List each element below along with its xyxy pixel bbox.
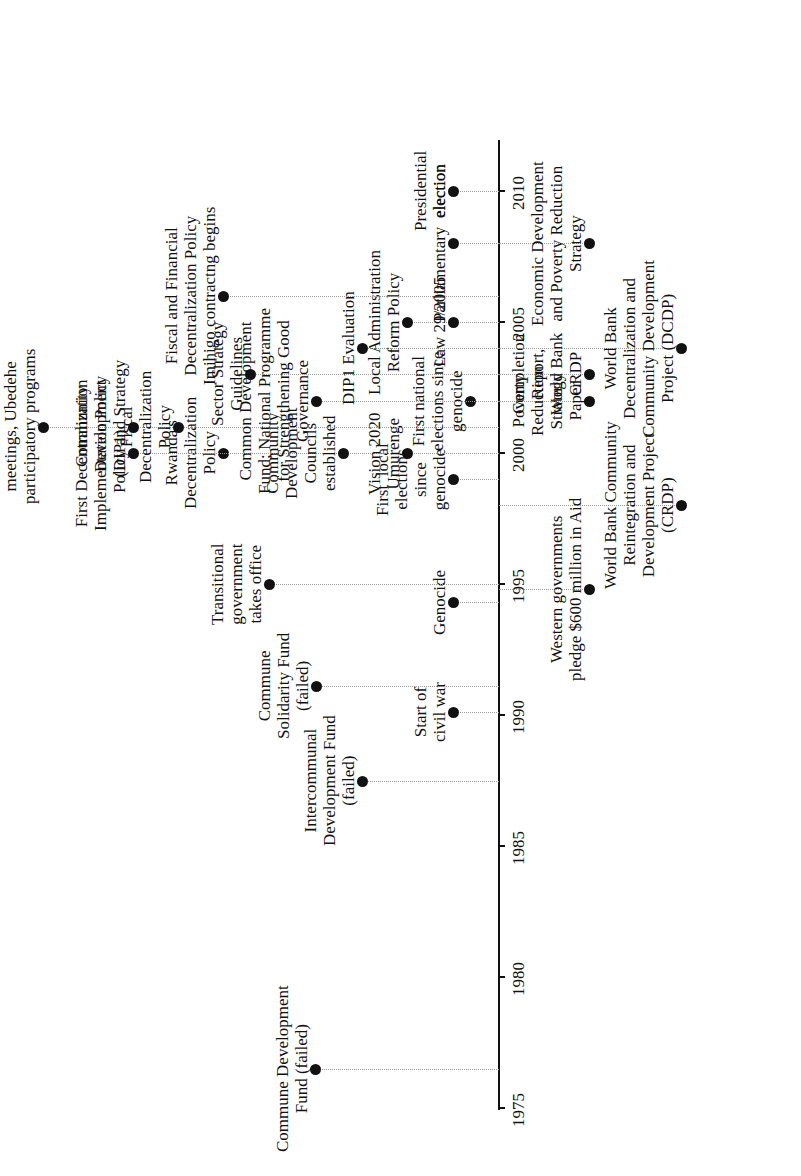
event-connector [453,243,499,244]
axis-tick [499,976,505,978]
axis-year-label: 1995 [509,569,529,603]
event-marker-dot [584,396,595,407]
timeline-axis [498,140,500,1110]
event-marker-dot [264,579,275,590]
event-connector [269,584,499,585]
event-label: Genocide [430,570,449,635]
axis-tick [499,845,505,847]
event-label: World Bank Community Reintegration and D… [601,422,677,590]
event-label: Common Development Fund; National Progra… [236,308,312,494]
event-marker-dot [311,396,322,407]
event-marker-dot [448,597,459,608]
event-connector [223,296,499,297]
event-label: Economic Development and Poverty Reducti… [528,161,585,326]
event-marker-dot [338,448,349,459]
event-label: Western governments pledge $600 million … [547,498,585,681]
event-connector [316,686,499,687]
event-connector [453,712,499,713]
event-connector [362,781,499,782]
event-label: Fiscal Decentralization Policy [117,370,174,482]
event-marker-dot [402,317,413,328]
event-marker-dot [676,343,687,354]
axis-tick [499,1107,505,1109]
event-marker-dot [676,500,687,511]
event-marker-dot [584,238,595,249]
axis-year-label: 2010 [509,176,529,210]
event-connector [315,1069,499,1070]
axis-tick [499,190,505,192]
event-label: Local Administration Reform Policy [365,250,403,395]
axis-year-label: 2000 [509,438,529,472]
axis-year-label: 1980 [509,962,529,996]
event-label: Vision 2020 Umurenge [365,412,403,495]
axis-tick [499,321,505,323]
event-marker-dot [357,776,368,787]
event-connector [453,191,499,192]
event-marker-dot [448,707,459,718]
axis-year-label: 1990 [509,700,529,734]
event-label: Commune Development Fund (failed) [273,986,311,1153]
event-marker-dot [448,186,459,197]
axis-year-label: 1975 [509,1093,529,1127]
event-connector [453,479,499,480]
event-marker-dot [310,1064,321,1075]
event-connector [453,322,499,323]
rotated-timeline-diagram: 19751980198519901995200020052010 Commune… [0,0,801,1176]
axis-year-label: 1985 [509,831,529,865]
event-marker-dot [448,238,459,249]
event-connector [407,453,499,454]
event-label: DIP1 Evaluation [339,291,358,405]
event-connector [453,602,499,603]
event-marker-dot [311,681,322,692]
axis-tick [499,583,505,585]
event-label: Start of civil war [411,682,449,742]
event-label: meetings, Ubedehe participatory programs [1,349,39,504]
event-label: Commune Solidarity Fund (failed) [255,633,312,739]
axis-tick [499,452,505,454]
event-label: Transitional government takes office [208,543,265,625]
event-marker-dot [218,291,229,302]
event-marker-dot [448,317,459,328]
event-label: World Bank Decentralization and Communit… [601,260,677,437]
event-marker-dot [38,422,49,433]
event-label: Completion Report, World Bank CRDP [509,333,585,415]
event-label: Fiscal and Financial Decentralization Po… [162,206,219,384]
event-marker-dot [448,474,459,485]
axis-tick [499,714,505,716]
event-marker-dot [584,369,595,380]
event-marker-dot [173,422,184,433]
event-label: Presidential election [411,151,449,231]
event-marker-dot [584,584,595,595]
